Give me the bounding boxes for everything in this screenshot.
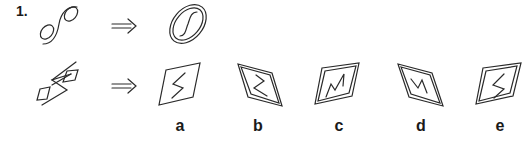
example-result-figure bbox=[162, 0, 213, 50]
option-c-label[interactable]: c bbox=[329, 117, 349, 135]
option-a-label[interactable]: a bbox=[170, 117, 190, 135]
example-source-figure bbox=[38, 4, 81, 44]
option-a-figure[interactable] bbox=[159, 63, 200, 105]
option-e-figure[interactable] bbox=[476, 63, 521, 104]
option-c-figure[interactable] bbox=[315, 63, 359, 104]
double-arrow-right-icon bbox=[112, 79, 136, 93]
double-arrow-right-icon bbox=[112, 19, 136, 33]
problem-source-figure bbox=[37, 62, 78, 105]
option-d-figure[interactable] bbox=[398, 64, 443, 106]
option-b-figure[interactable] bbox=[238, 64, 282, 106]
option-d-label[interactable]: d bbox=[411, 117, 431, 135]
option-b-label[interactable]: b bbox=[248, 117, 268, 135]
option-e-label[interactable]: e bbox=[490, 117, 510, 135]
